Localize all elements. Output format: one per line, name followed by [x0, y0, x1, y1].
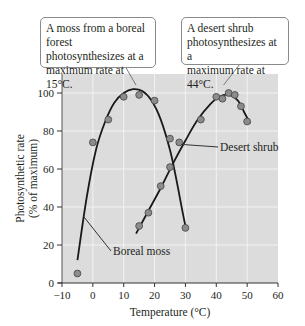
x-tick-label: 50: [242, 289, 254, 301]
shrub-callout-line-2: photosynthesizes at a: [187, 35, 283, 63]
desert-shrub-point: [197, 116, 204, 123]
shrub-callout: A desert shrub photosynthesizes at a max…: [181, 17, 289, 65]
boreal-moss-point: [74, 270, 81, 277]
moss-callout: A moss from a boreal forest photosynthes…: [40, 17, 156, 68]
x-tick-label: 30: [180, 289, 192, 301]
desert-shrub-point: [167, 135, 174, 142]
boreal-moss-point: [105, 116, 112, 123]
x-tick-label: 60: [273, 289, 285, 301]
x-tick-label: 10: [118, 289, 130, 301]
moss-callout-line-1: A moss from a boreal forest: [46, 21, 150, 49]
shrub-callout-line-1: A desert shrub: [187, 21, 283, 35]
desert-shrub-label: Desert shrub: [220, 141, 279, 153]
x-tick-label: −10: [53, 289, 71, 301]
boreal-moss-label: Boreal moss: [113, 245, 171, 257]
y-tick-label: 60: [43, 163, 55, 175]
desert-shrub-point: [231, 92, 238, 99]
y-axis-title-line-1: Photosynthetic rate: [14, 134, 27, 222]
x-tick-label: 40: [211, 289, 223, 301]
shrub-callout-line-3: maximum rate at 44°C.: [187, 63, 283, 91]
x-tick-label: 0: [90, 289, 96, 301]
x-axis-title: Temperature (°C): [130, 306, 211, 319]
desert-shrub-point: [145, 209, 152, 216]
x-tick-label: 20: [149, 289, 161, 301]
moss-callout-line-2: photosynthesizes at a: [46, 49, 150, 63]
y-tick-label: 0: [49, 277, 55, 289]
y-tick-label: 20: [43, 239, 55, 251]
boreal-moss-point: [89, 139, 96, 146]
desert-shrub-point: [238, 103, 245, 110]
boreal-moss-point: [151, 97, 158, 104]
boreal-moss-point: [120, 93, 127, 100]
desert-shrub-point: [167, 164, 174, 171]
y-tick-label: 40: [43, 201, 55, 213]
boreal-moss-point: [136, 92, 143, 99]
desert-shrub-point: [219, 95, 226, 102]
desert-shrub-point: [244, 118, 251, 125]
boreal-moss-point: [182, 225, 189, 232]
moss-callout-line-3: maximum rate at 15°C.: [46, 63, 150, 91]
y-tick-label: 80: [43, 125, 55, 137]
desert-shrub-point: [157, 183, 164, 190]
y-axis-title-line-2: (% of maximum): [27, 139, 40, 218]
desert-shrub-point: [136, 223, 143, 230]
